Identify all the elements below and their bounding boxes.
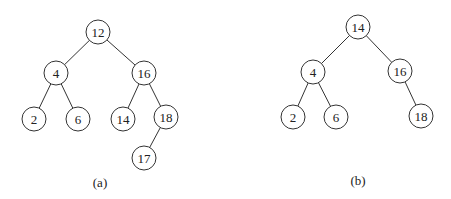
tree-node: 2 [22, 107, 46, 131]
svg-text:18: 18 [415, 109, 428, 124]
svg-text:16: 16 [138, 66, 152, 81]
svg-text:14: 14 [352, 20, 366, 35]
svg-text:4: 4 [310, 65, 317, 80]
svg-text:6: 6 [333, 110, 340, 125]
svg-text:17: 17 [138, 151, 152, 166]
tree-node: 6 [66, 107, 90, 131]
tree-node: 17 [132, 146, 156, 170]
svg-text:16: 16 [394, 64, 408, 79]
svg-text:6: 6 [75, 112, 82, 127]
svg-text:12: 12 [92, 25, 105, 40]
bst-figure: 12 4 16 2 6 14 18 17 (a) 14 4 16 2 6 18 … [0, 0, 451, 199]
svg-text:4: 4 [53, 66, 60, 81]
tree-node: 18 [154, 105, 178, 129]
svg-text:2: 2 [31, 112, 38, 127]
tree-node: 14 [111, 107, 135, 131]
svg-text:18: 18 [160, 110, 173, 125]
tree-node: 18 [409, 104, 433, 128]
tree-node: 2 [281, 105, 305, 129]
tree-node: 4 [44, 61, 68, 85]
caption-b: (b) [350, 173, 365, 188]
tree-b-nodes: 14 4 16 2 6 18 [281, 15, 433, 129]
tree-a-edges [34, 32, 166, 158]
tree-node: 4 [301, 60, 325, 84]
caption-a: (a) [93, 175, 107, 190]
tree-node: 14 [346, 15, 370, 39]
svg-text:14: 14 [117, 112, 131, 127]
tree-node: 6 [324, 105, 348, 129]
tree-node: 16 [132, 61, 156, 85]
tree-node: 12 [86, 20, 110, 44]
tree-node: 16 [388, 59, 412, 83]
svg-text:2: 2 [290, 110, 297, 125]
